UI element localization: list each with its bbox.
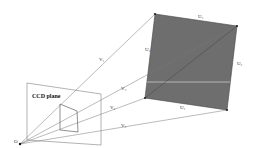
ray-v1 [20, 14, 155, 144]
corner-point [226, 109, 228, 111]
edge-label-u3: U₃ [237, 61, 243, 66]
edge-label-u1: U₁ [180, 105, 186, 110]
camera-projection-diagram: CCD plane O V₁ V₂ V₃ V₄ U₁ U₂ U₃ U₄ [0, 0, 255, 148]
edge-label-u4: U₄ [198, 14, 204, 19]
ray-v2 [20, 98, 145, 144]
origin-point [19, 143, 21, 145]
corner-point [144, 97, 146, 99]
ray-label-v2: V₂ [110, 105, 116, 110]
ray-label-v3: V₃ [121, 123, 127, 128]
corner-point [154, 13, 156, 15]
ray-label-v4: V₄ [121, 86, 127, 91]
ccd-plane-label: CCD plane [32, 93, 61, 99]
ray-label-v1: V₁ [99, 57, 105, 62]
corner-point [236, 25, 238, 27]
edge-label-u2: U₂ [145, 47, 151, 52]
projected-quadrilateral [60, 104, 78, 132]
origin-label: O [14, 139, 18, 144]
